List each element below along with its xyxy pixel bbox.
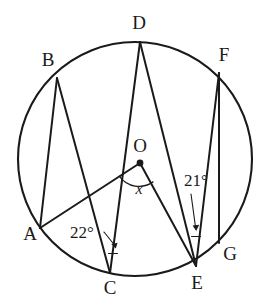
point-label-A: A xyxy=(23,223,37,244)
leader-arrowhead-21deg xyxy=(193,225,200,231)
radius-O-A xyxy=(40,163,140,228)
point-label-F: F xyxy=(219,44,230,65)
angle-label-22-degrees: 22° xyxy=(70,223,94,242)
point-label-E: E xyxy=(191,272,203,293)
leader-line-22deg xyxy=(104,232,115,245)
chord-D-C xyxy=(110,42,140,273)
point-label-B: B xyxy=(42,49,55,70)
point-label-C: C xyxy=(104,277,117,298)
leader-arrowhead-22deg xyxy=(111,243,117,249)
geometry-figure: A B C D E F G O 22° 21° x xyxy=(0,0,269,308)
chord-B-A xyxy=(40,78,57,228)
point-label-G: G xyxy=(223,243,237,264)
leader-line-21deg xyxy=(191,194,196,227)
chord-B-C xyxy=(57,78,110,273)
point-label-D: D xyxy=(132,12,146,33)
point-label-O: O xyxy=(133,135,147,156)
geometry-canvas: A B C D E F G O 22° 21° x xyxy=(0,0,269,308)
angle-label-x: x xyxy=(134,180,142,197)
chord-D-E xyxy=(140,42,196,266)
angle-label-21-degrees: 21° xyxy=(184,171,208,190)
centre-point-dot xyxy=(137,160,144,167)
